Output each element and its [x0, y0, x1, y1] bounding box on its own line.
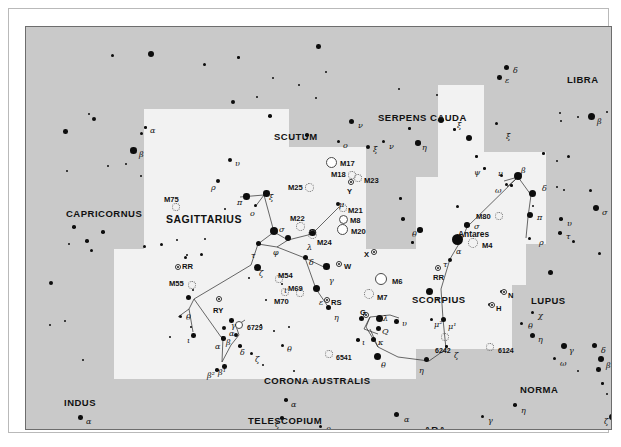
star — [609, 414, 611, 420]
dso-m75[interactable] — [172, 203, 180, 211]
variable-star-marker[interactable] — [435, 265, 441, 271]
dso-m6[interactable] — [375, 273, 387, 285]
constellation-label-scutum: SCUTUM — [274, 132, 318, 142]
dso-label: M8 — [350, 217, 361, 225]
constellation-label-indus: INDUS — [64, 398, 96, 408]
star — [399, 197, 402, 200]
dso-m7[interactable] — [364, 289, 374, 299]
greek-star-label: μ — [339, 201, 344, 209]
star — [483, 167, 486, 170]
greek-star-label: ζ — [259, 270, 263, 278]
dso-label: M22 — [290, 215, 305, 223]
star — [531, 311, 534, 314]
star — [325, 71, 327, 73]
variable-star-marker[interactable] — [324, 297, 330, 303]
star — [315, 97, 317, 99]
dso-label: M75 — [164, 196, 179, 204]
greek-star-label: η — [419, 367, 424, 375]
variable-star-marker[interactable] — [216, 296, 222, 302]
dso-label: M23 — [364, 177, 379, 185]
greek-star-label: δ — [601, 347, 606, 355]
greek-star-label: ι — [187, 337, 190, 345]
greek-star-label: η — [334, 314, 339, 322]
star — [558, 231, 562, 235]
star — [191, 333, 196, 338]
star — [592, 343, 597, 348]
greek-star-label: λ — [307, 244, 312, 252]
dso-label: M7 — [377, 294, 388, 302]
star — [453, 128, 456, 131]
greek-star-label: ξ — [373, 146, 377, 154]
greek-star-label: π — [537, 214, 542, 222]
greek-star-label: ω — [560, 360, 567, 368]
star — [148, 51, 154, 57]
dso-m17[interactable] — [326, 157, 337, 168]
dso-m20[interactable] — [337, 224, 348, 235]
variable-star-label: RY — [213, 307, 223, 315]
variable-star-marker[interactable] — [348, 179, 354, 185]
constellation-label-telescopium: TELESCOPIUM — [248, 416, 322, 426]
greek-star-label: ξ — [506, 133, 510, 141]
dso-m18[interactable] — [348, 171, 356, 179]
variable-star-marker[interactable] — [489, 302, 495, 308]
dso-m24[interactable] — [308, 230, 317, 239]
star — [417, 227, 423, 233]
dso-6242[interactable] — [441, 333, 449, 341]
named-star-label: Antares — [458, 230, 489, 238]
variable-star-marker[interactable] — [501, 289, 507, 295]
dso-label: M18 — [331, 171, 346, 179]
constellation-label-serpens-cauda: SERPENS CAUDA — [378, 113, 467, 123]
dso-m4[interactable] — [468, 238, 478, 248]
greek-star-label: δ — [513, 67, 518, 75]
star — [85, 239, 89, 243]
dso-label: M6 — [392, 278, 403, 286]
greek-star-label: ν — [498, 170, 503, 178]
dso-m8[interactable] — [339, 215, 348, 224]
variable-star-marker[interactable] — [371, 249, 377, 255]
star — [415, 140, 421, 146]
star — [606, 393, 608, 395]
greek-star-label: μ² — [434, 321, 442, 329]
greek-star-label: υ — [402, 320, 407, 328]
dso-label: M69 — [288, 285, 303, 293]
dso-6124[interactable] — [486, 343, 494, 351]
star — [316, 44, 321, 49]
greek-star-label: θ — [412, 231, 417, 239]
star — [598, 252, 601, 255]
dso-m80[interactable] — [495, 212, 503, 220]
star — [464, 222, 470, 228]
greek-star-label: θ — [186, 314, 191, 322]
dso-6541[interactable] — [325, 350, 333, 358]
dso-m55[interactable] — [188, 281, 196, 289]
variable-star-label: RR — [433, 274, 444, 282]
dso-label: M55 — [169, 280, 184, 288]
greek-star-label: ρ — [539, 239, 544, 247]
star — [530, 333, 535, 338]
variable-star-marker[interactable] — [336, 261, 342, 267]
dso-6729[interactable] — [235, 321, 243, 329]
greek-star-label: β — [597, 118, 602, 126]
star — [49, 281, 53, 285]
greek-star-label: ν — [389, 143, 394, 151]
variable-star-label: RR — [182, 263, 193, 271]
star — [293, 370, 295, 372]
greek-star-label: δ — [309, 259, 314, 267]
dso-label: M20 — [351, 228, 366, 236]
greek-star-label: υ — [567, 220, 572, 228]
variable-star-label: Y — [347, 188, 352, 196]
greek-star-label: γ — [569, 347, 574, 355]
greek-star-label: κ — [378, 339, 383, 347]
greek-star-label: μ¹ — [448, 323, 456, 331]
star — [495, 122, 498, 125]
star — [588, 113, 595, 120]
greek-star-label: ξ — [269, 194, 273, 202]
star — [256, 96, 258, 98]
constellation-label-corona-australis: CORONA AUSTRALIS — [264, 376, 371, 386]
star — [548, 270, 553, 275]
sky-canvas: M75M55M54M69M70M22M25M23M18M24M21M17M8M2… — [26, 27, 611, 429]
greek-star-label: ξ — [457, 122, 461, 130]
dso-m25[interactable] — [305, 183, 314, 192]
variable-star-marker[interactable] — [175, 264, 181, 270]
dso-label: M24 — [317, 239, 332, 247]
dso-label: M54 — [278, 272, 293, 280]
